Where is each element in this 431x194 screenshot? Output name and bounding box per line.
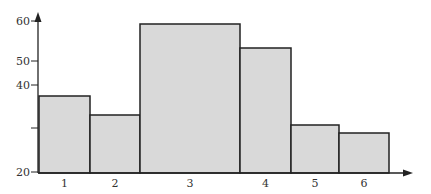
x-tick-label: 5	[312, 177, 319, 190]
y-tick-label: 50	[16, 55, 30, 68]
x-axis-arrow-icon	[403, 170, 413, 177]
bar-4	[240, 48, 291, 173]
y-ticks-group: 60504020	[16, 15, 38, 179]
bar-1	[39, 96, 90, 173]
x-tick-label: 4	[262, 177, 269, 190]
x-labels-group: 123456	[61, 177, 368, 190]
bar-5	[291, 125, 339, 173]
bar-2	[90, 115, 140, 173]
x-tick-label: 1	[61, 177, 68, 190]
bar-6	[339, 133, 389, 173]
x-tick-label: 6	[361, 177, 368, 190]
x-tick-label: 3	[187, 177, 194, 190]
y-tick-label: 60	[16, 15, 30, 28]
histogram-chart: 60504020 123456	[0, 0, 431, 194]
x-tick-label: 2	[112, 177, 119, 190]
bars-group	[39, 24, 389, 173]
bar-3	[140, 24, 240, 173]
y-tick-label: 40	[16, 79, 30, 92]
y-tick-label: 20	[16, 166, 30, 179]
